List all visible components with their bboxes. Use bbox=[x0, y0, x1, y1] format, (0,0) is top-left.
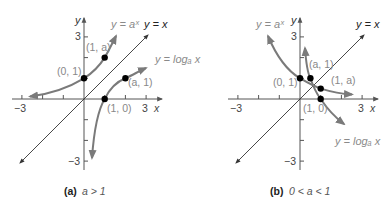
tick-label-y-3: 3 bbox=[75, 30, 81, 42]
point-label-1-0: (1, 0) bbox=[303, 102, 328, 114]
log-curve-label: y = logₐ x bbox=[334, 135, 381, 147]
exp-curve-label: y = aˣ bbox=[255, 18, 285, 30]
point-0-1 bbox=[297, 75, 303, 81]
point-label-a-1: (a, 1) bbox=[309, 58, 334, 70]
point-label-a-1: (a, 1) bbox=[128, 76, 153, 88]
point-a-1 bbox=[307, 75, 313, 81]
point-1-a bbox=[102, 54, 108, 60]
log-curve-label: y = logₐ x bbox=[154, 53, 201, 65]
panel-b: −3 3 x 3 −3 y (0, 1) (a, 1) (1, a) (1, 0… bbox=[228, 14, 381, 197]
tick-label-x-neg3: −3 bbox=[230, 102, 242, 114]
point-label-1-0: (1, 0) bbox=[107, 102, 132, 114]
point-label-0-1: (0, 1) bbox=[57, 65, 82, 77]
identity-label: y = x bbox=[143, 18, 168, 30]
diagram-canvas: −3 3 x 3 −3 y (0, 1) (1, a) (a, 1) (1, 0… bbox=[0, 0, 392, 210]
tick-label-x-3: 3 bbox=[142, 102, 148, 114]
tick-label-y-3: 3 bbox=[291, 30, 297, 42]
x-axis-label: x bbox=[369, 102, 376, 114]
caption-label-b: (b) bbox=[270, 185, 283, 197]
tick-label-y-neg3: −3 bbox=[68, 155, 80, 167]
point-1-a bbox=[318, 85, 324, 91]
point-label-0-1: (0, 1) bbox=[273, 76, 298, 88]
caption-condition-a: a > 1 bbox=[82, 185, 106, 197]
caption-label-a: (a) bbox=[64, 185, 77, 197]
panel-a: −3 3 x 3 −3 y (0, 1) (1, a) (a, 1) (1, 0… bbox=[12, 14, 201, 197]
point-label-1-a: (1, a) bbox=[331, 74, 356, 86]
identity-label: y = x bbox=[355, 18, 380, 30]
tick-label-x-3: 3 bbox=[358, 102, 364, 114]
caption-condition-b: 0 < a < 1 bbox=[289, 185, 330, 197]
exp-curve-label: y = aˣ bbox=[110, 18, 140, 30]
point-label-1-a: (1, a) bbox=[86, 41, 111, 53]
y-axis-label: y bbox=[74, 14, 82, 26]
point-0-1 bbox=[81, 75, 87, 81]
x-axis-label: x bbox=[153, 102, 160, 114]
tick-label-y-neg3: −3 bbox=[284, 155, 296, 167]
tick-label-x-neg3: −3 bbox=[14, 102, 26, 114]
y-axis-label: y bbox=[290, 14, 298, 26]
